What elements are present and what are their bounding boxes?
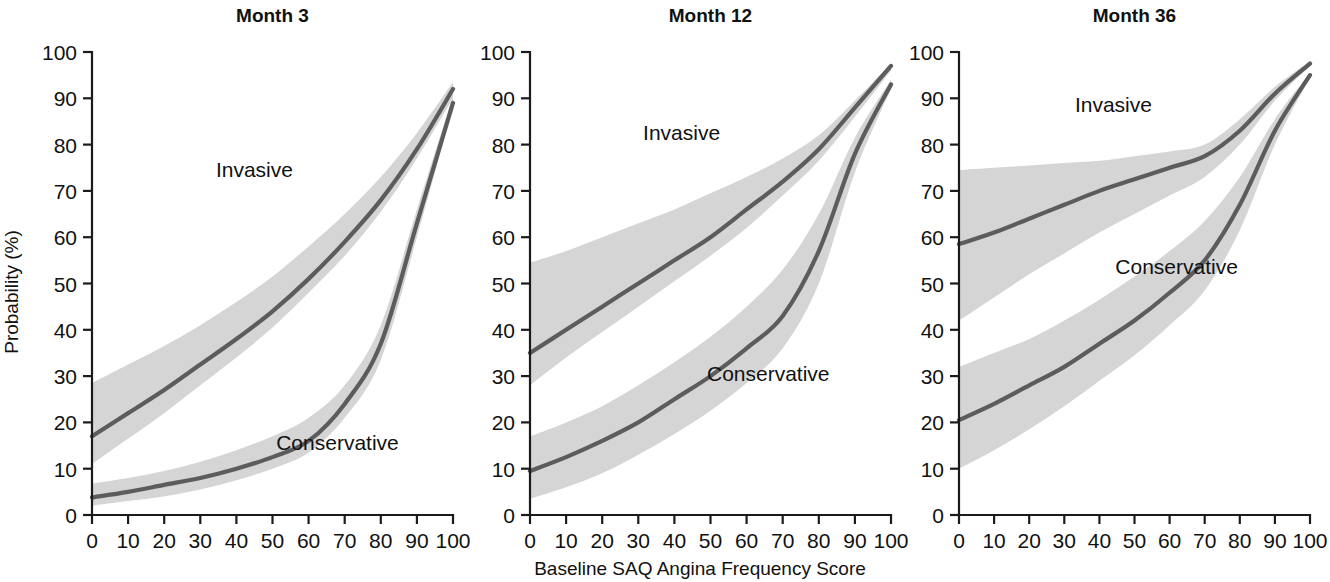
series-label-conservative: Conservative xyxy=(276,431,399,454)
x-tick-label: 80 xyxy=(369,529,392,552)
x-tick-label: 20 xyxy=(153,529,176,552)
x-tick-label: 20 xyxy=(1018,529,1041,552)
y-tick-label: 10 xyxy=(54,458,77,481)
y-tick-label: 30 xyxy=(492,365,515,388)
y-tick-label: 70 xyxy=(921,180,944,203)
y-tick-label: 20 xyxy=(921,411,944,434)
x-tick-label: 0 xyxy=(524,529,536,552)
x-tick-label: 20 xyxy=(591,529,614,552)
x-tick-label: 10 xyxy=(116,529,139,552)
y-tick-label: 30 xyxy=(54,365,77,388)
y-tick-label: 60 xyxy=(921,226,944,249)
x-tick-label: 0 xyxy=(953,529,965,552)
y-tick-label: 10 xyxy=(921,458,944,481)
x-tick-label: 70 xyxy=(1193,529,1216,552)
series-label-conservative: Conservative xyxy=(1115,255,1238,278)
y-tick-label: 90 xyxy=(492,87,515,110)
y-tick-label: 50 xyxy=(54,273,77,296)
y-tick-label: 90 xyxy=(54,87,77,110)
y-tick-label: 0 xyxy=(503,504,515,527)
figure-container: Month 3InvasiveConservative0102030405060… xyxy=(0,0,1330,582)
x-tick-label: 50 xyxy=(261,529,284,552)
multi-panel-line-chart: Month 3InvasiveConservative0102030405060… xyxy=(0,0,1330,582)
panel-title: Month 12 xyxy=(669,5,752,26)
x-tick-label: 30 xyxy=(189,529,212,552)
x-tick-label: 80 xyxy=(807,529,830,552)
y-tick-label: 0 xyxy=(932,504,944,527)
x-tick-label: 40 xyxy=(663,529,686,552)
series-label-invasive: Invasive xyxy=(216,158,293,181)
y-tick-label: 90 xyxy=(921,87,944,110)
panel-title: Month 3 xyxy=(236,5,309,26)
y-tick-label: 20 xyxy=(54,411,77,434)
y-tick-label: 50 xyxy=(492,273,515,296)
series-label-invasive: Invasive xyxy=(643,121,720,144)
y-tick-label: 100 xyxy=(480,41,515,64)
x-tick-label: 60 xyxy=(1158,529,1181,552)
x-tick-label: 10 xyxy=(982,529,1005,552)
y-tick-label: 100 xyxy=(909,41,944,64)
x-tick-label: 70 xyxy=(333,529,356,552)
x-tick-label: 30 xyxy=(1053,529,1076,552)
x-tick-label: 70 xyxy=(771,529,794,552)
y-tick-label: 70 xyxy=(492,180,515,203)
y-tick-label: 80 xyxy=(492,134,515,157)
series-label-conservative: Conservative xyxy=(707,362,830,385)
x-tick-label: 50 xyxy=(699,529,722,552)
x-axis-title: Baseline SAQ Angina Frequency Score xyxy=(534,558,866,579)
y-tick-label: 40 xyxy=(921,319,944,342)
x-tick-label: 40 xyxy=(1088,529,1111,552)
y-tick-label: 40 xyxy=(54,319,77,342)
y-tick-label: 10 xyxy=(492,458,515,481)
x-tick-label: 30 xyxy=(627,529,650,552)
x-tick-label: 90 xyxy=(1263,529,1286,552)
x-tick-label: 10 xyxy=(554,529,577,552)
x-tick-label: 60 xyxy=(297,529,320,552)
y-tick-label: 40 xyxy=(492,319,515,342)
series-label-invasive: Invasive xyxy=(1075,93,1152,116)
x-tick-label: 0 xyxy=(86,529,98,552)
y-tick-label: 30 xyxy=(921,365,944,388)
x-tick-label: 80 xyxy=(1228,529,1251,552)
y-tick-label: 70 xyxy=(54,180,77,203)
y-axis-title: Probability (%) xyxy=(1,230,22,354)
x-tick-label: 100 xyxy=(1292,529,1327,552)
x-tick-label: 50 xyxy=(1123,529,1146,552)
y-tick-label: 80 xyxy=(54,134,77,157)
x-tick-label: 60 xyxy=(735,529,758,552)
y-tick-label: 60 xyxy=(54,226,77,249)
x-tick-label: 100 xyxy=(873,529,908,552)
x-tick-label: 90 xyxy=(843,529,866,552)
y-tick-label: 0 xyxy=(65,504,77,527)
y-tick-label: 50 xyxy=(921,273,944,296)
x-tick-label: 90 xyxy=(405,529,428,552)
y-tick-label: 20 xyxy=(492,411,515,434)
y-tick-label: 100 xyxy=(42,41,77,64)
x-tick-label: 100 xyxy=(435,529,470,552)
x-tick-label: 40 xyxy=(225,529,248,552)
panel-title: Month 36 xyxy=(1093,5,1176,26)
y-tick-label: 60 xyxy=(492,226,515,249)
y-tick-label: 80 xyxy=(921,134,944,157)
